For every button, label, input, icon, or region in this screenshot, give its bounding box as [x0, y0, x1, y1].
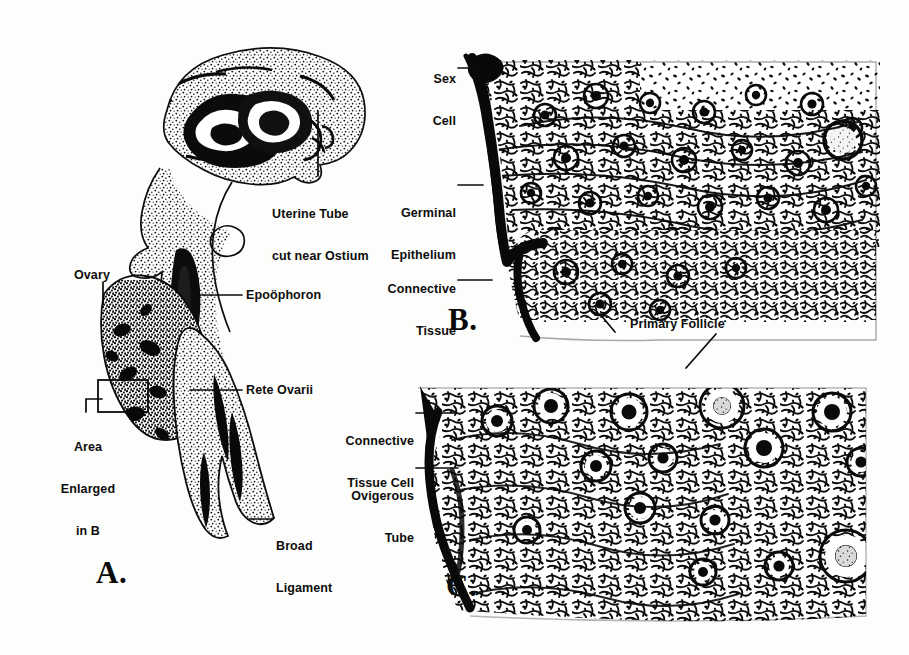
label-ovigerous-line1: Ovigerous	[310, 489, 414, 503]
label-germinal-line1: Germinal	[336, 206, 456, 220]
label-sex-line2: Cell	[392, 114, 456, 128]
panel-letter-a: A.	[96, 555, 127, 591]
label-primary-follicle: Primary Follicle	[630, 317, 725, 331]
panel-letter-b: B.	[448, 302, 477, 338]
figure-plate: Uterine Tube cut near Ostium Ovary Epoöp…	[0, 0, 909, 655]
label-area-line1: Area	[48, 440, 128, 454]
label-sex-line1: Sex	[392, 72, 456, 86]
label-rete-ovarii: Rete Ovarii	[246, 383, 313, 397]
label-ovary: Ovary	[74, 268, 110, 282]
label-area-line3: in B	[48, 524, 128, 538]
label-area-line2: Enlarged	[48, 482, 128, 496]
label-broad-line2: Ligament	[276, 581, 332, 595]
label-ovigerous-tube: Ovigerous Tube	[310, 461, 414, 573]
panel-b-artwork	[458, 50, 880, 341]
panel-letter-c: C.	[446, 568, 477, 604]
label-sex-cell: Sex Cell	[392, 44, 456, 156]
label-connective-line2: Tissue	[336, 324, 456, 338]
label-ovigerous-line2: Tube	[310, 531, 414, 545]
panel-c-artwork	[410, 334, 875, 630]
label-connective-line1: Connective	[336, 282, 456, 296]
label-area-enlarged-in-b: Area Enlarged in B	[48, 412, 128, 566]
label-connective-tissue: Connective Tissue	[336, 254, 456, 366]
label-ct-cell-line1: Connective	[300, 434, 414, 448]
label-epoophoron: Epoöphoron	[246, 288, 321, 302]
